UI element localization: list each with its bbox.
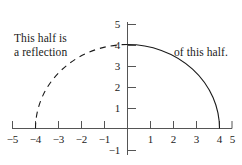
y-tick-label-2: 2 <box>111 82 124 93</box>
annotation-right-half: of this half. <box>174 46 228 60</box>
annotation-left-line-2: a reflection <box>14 46 67 60</box>
semicircle-reflection-figure: −5 −4 −3 −2 −1 1 2 3 4 5 5 4 3 2 1 −1 Th… <box>0 0 242 165</box>
x-tick-label-4: 4 <box>213 134 226 145</box>
x-tick-label--5: −5 <box>4 134 21 145</box>
y-axis-ticks <box>128 25 137 151</box>
x-tick-label-3: 3 <box>190 134 203 145</box>
annotation-left-half: This half is a reflection <box>14 32 67 59</box>
x-tick-label--4: −4 <box>27 134 44 145</box>
x-tick-label--2: −2 <box>73 134 90 145</box>
x-tick-label-2: 2 <box>167 134 180 145</box>
y-tick-label-3: 3 <box>111 61 124 72</box>
y-tick-label--1: −1 <box>106 145 123 156</box>
x-axis-ticks <box>13 121 233 129</box>
y-tick-label-5: 5 <box>111 19 124 30</box>
x-tick-label-1: 1 <box>144 134 157 145</box>
y-tick-label-4: 4 <box>111 40 124 51</box>
x-tick-label--3: −3 <box>50 134 67 145</box>
y-tick-label-1: 1 <box>111 103 124 114</box>
x-tick-label-5: 5 <box>226 134 239 145</box>
annotation-left-line-1: This half is <box>14 32 67 46</box>
